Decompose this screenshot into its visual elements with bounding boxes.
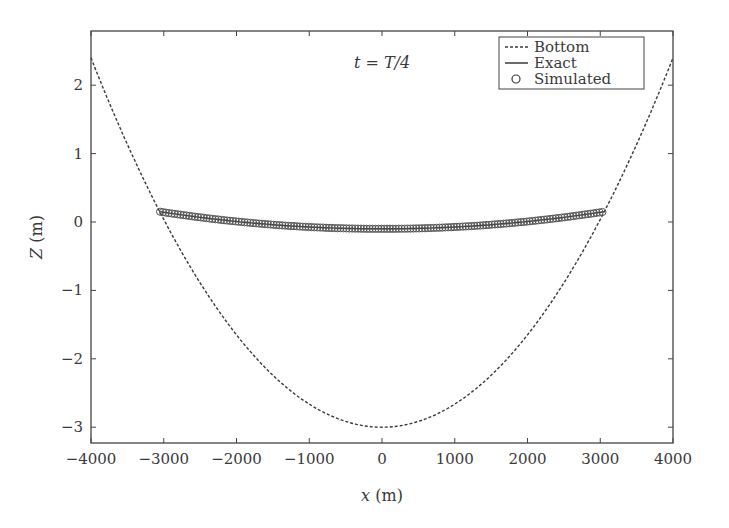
y-axis-label: Z (m)	[27, 215, 46, 260]
x-tick-label: −1000	[284, 450, 335, 468]
plot-frame	[91, 31, 673, 443]
chart-canvas: −4000−3000−2000−100001000200030004000210…	[0, 0, 729, 528]
x-tick-label: −3000	[138, 450, 189, 468]
legend: Bottom Exact Simulated	[499, 37, 644, 89]
y-tick-label: −2	[61, 350, 83, 368]
x-tick-label: −2000	[211, 450, 262, 468]
y-tick-label: 1	[73, 145, 83, 163]
x-tick-label: 0	[377, 450, 387, 468]
y-tick-label: 2	[73, 76, 83, 94]
y-tick-label: −3	[61, 418, 83, 436]
annotation-time: t = T/4	[354, 53, 410, 72]
x-tick-label: 1000	[436, 450, 474, 468]
plot-area	[91, 58, 673, 427]
x-axis-label: x (m)	[361, 486, 403, 505]
x-tick-label: 3000	[581, 450, 619, 468]
x-tick-label: 2000	[508, 450, 546, 468]
y-tick-label: 0	[73, 213, 83, 231]
y-tick-label: −1	[61, 281, 83, 299]
axis-ticks: −4000−3000−2000−100001000200030004000210…	[61, 31, 692, 468]
x-tick-label: 4000	[654, 450, 692, 468]
bottom-profile-line	[91, 58, 673, 427]
x-tick-label: −4000	[66, 450, 117, 468]
legend-label-simulated: Simulated	[534, 70, 612, 88]
